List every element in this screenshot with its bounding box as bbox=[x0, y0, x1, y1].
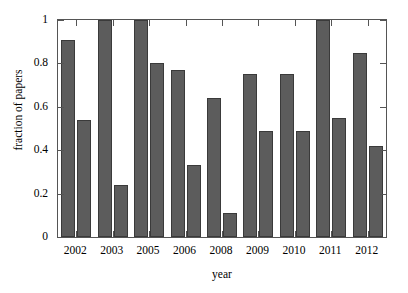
x-axis-tick bbox=[295, 20, 296, 26]
x-axis-tick bbox=[186, 231, 187, 237]
x-axis-tick bbox=[149, 20, 150, 26]
x-axis-tick bbox=[186, 20, 187, 26]
x-axis-tick-label: 2010 bbox=[282, 244, 305, 256]
x-axis-tick bbox=[331, 20, 332, 26]
y-axis-tick-label: 0 bbox=[0, 230, 48, 242]
y-axis-tick bbox=[380, 20, 386, 21]
bar-series-container bbox=[58, 20, 386, 237]
bar bbox=[150, 63, 164, 237]
y-axis-tick-label: 0.2 bbox=[0, 187, 48, 199]
x-axis-tick bbox=[76, 20, 77, 26]
plot-area bbox=[57, 19, 387, 238]
bar bbox=[61, 40, 75, 237]
x-axis-tick-label: 2006 bbox=[173, 244, 196, 256]
x-axis-tick-label: 2009 bbox=[246, 244, 269, 256]
x-axis-tick bbox=[113, 231, 114, 237]
y-axis-tick-labels: 00.20.40.60.81 bbox=[0, 19, 52, 238]
bar bbox=[207, 98, 221, 237]
y-axis-tick-label: 0.8 bbox=[0, 56, 48, 68]
x-axis-tick bbox=[149, 231, 150, 237]
y-axis-tick bbox=[380, 63, 386, 64]
bar bbox=[114, 185, 128, 237]
x-axis-tick-label: 2003 bbox=[100, 244, 123, 256]
y-axis-tick-label: 1 bbox=[0, 13, 48, 25]
x-axis-tick bbox=[258, 20, 259, 26]
y-axis-tick bbox=[380, 194, 386, 195]
bar bbox=[98, 20, 112, 237]
bar bbox=[280, 74, 294, 237]
chart-figure: 00.20.40.60.81 2002200320052006200820092… bbox=[0, 0, 408, 293]
y-axis-tick-label: 0.4 bbox=[0, 143, 48, 155]
x-axis-tick bbox=[368, 20, 369, 26]
y-axis-tick bbox=[380, 237, 386, 238]
x-axis-title: year bbox=[57, 268, 387, 280]
y-axis-tick bbox=[58, 63, 64, 64]
x-axis-tick-label: 2012 bbox=[355, 244, 378, 256]
bar bbox=[134, 20, 148, 237]
y-axis-tick bbox=[58, 237, 64, 238]
x-axis-tick bbox=[331, 231, 332, 237]
y-axis-tick bbox=[380, 150, 386, 151]
x-axis-tick-label: 2002 bbox=[64, 244, 87, 256]
x-axis-tick bbox=[222, 231, 223, 237]
bar bbox=[369, 146, 383, 237]
bar bbox=[353, 53, 367, 237]
y-axis-tick bbox=[380, 107, 386, 108]
bar bbox=[332, 118, 346, 237]
bar bbox=[77, 120, 91, 237]
bar bbox=[316, 20, 330, 237]
bar bbox=[296, 131, 310, 237]
y-axis-tick bbox=[58, 107, 64, 108]
x-axis-tick bbox=[258, 231, 259, 237]
y-axis-tick bbox=[58, 150, 64, 151]
y-axis-tick-label: 0.6 bbox=[0, 100, 48, 112]
x-axis-tick bbox=[76, 231, 77, 237]
x-axis-tick bbox=[222, 20, 223, 26]
x-axis-tick-labels: 200220032005200620082009201020112012 bbox=[57, 244, 387, 260]
bar bbox=[243, 74, 257, 237]
x-axis-tick bbox=[295, 231, 296, 237]
bar bbox=[259, 131, 273, 237]
y-axis-tick bbox=[58, 20, 64, 21]
x-axis-tick-label: 2008 bbox=[210, 244, 233, 256]
y-axis-title: fraction of papers bbox=[12, 40, 24, 180]
bar bbox=[223, 213, 237, 237]
x-axis-tick bbox=[113, 20, 114, 26]
x-axis-tick-label: 2005 bbox=[137, 244, 160, 256]
y-axis-tick bbox=[58, 194, 64, 195]
clipped-title-strip bbox=[0, 0, 408, 12]
bar bbox=[187, 165, 201, 237]
x-axis-tick bbox=[368, 231, 369, 237]
x-axis-tick-label: 2011 bbox=[319, 244, 342, 256]
bar bbox=[171, 70, 185, 237]
